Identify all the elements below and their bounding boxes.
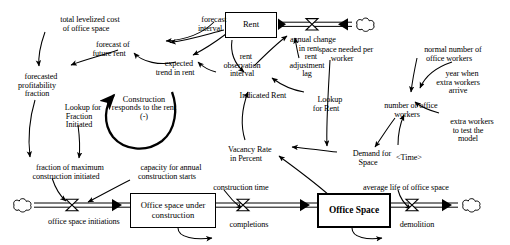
var-expected-trend-in-rent[interactable]: expected trend in rent (137, 52, 213, 85)
var-extra-workers-to-test-the-model-text: extra workers to test the model (450, 117, 493, 143)
var-lookup-for-rent[interactable]: Lookup for Rent (302, 88, 350, 121)
stock-office-space-label: Office Space (329, 206, 379, 216)
stock-office-space-under-construction-label: Office space under construction (131, 201, 215, 219)
var-indicated-rent-text: Indicated Rent (240, 91, 287, 100)
var-time-text: <Time> (396, 153, 422, 162)
var-indicated-rent[interactable]: Indicated Rent (222, 84, 296, 109)
var-lookup-for-fraction-initiated[interactable]: Lookup for Fraction Initiated (48, 96, 110, 138)
var-forecasted-profitability-fraction-text: forecasted profitability fraction (18, 72, 57, 98)
flow-label-demolition: demolition (384, 213, 442, 238)
var-average-life-of-office-space[interactable]: average life of office space (330, 176, 474, 201)
var-vacancy-rate-in-percent-text: Vacancy Rate in Percent (228, 145, 272, 162)
flow-office-space-initiations-text: office space initiations (48, 217, 120, 226)
var-space-needed-per-worker-text: space needed per worker (319, 45, 373, 62)
var-forecast-interval-text: forecast interval (198, 15, 227, 32)
var-construction-time[interactable]: construction time (192, 176, 282, 201)
var-lookup-for-rent-text: Lookup for Rent (313, 95, 342, 112)
var-extra-workers-to-test-the-model[interactable]: extra workers to test the model (434, 110, 502, 152)
var-time[interactable]: <Time> (382, 146, 428, 171)
var-normal-number-of-office-workers-text: normal number of office workers (424, 45, 482, 62)
var-expected-trend-in-rent-text: expected trend in rent (156, 59, 195, 76)
var-fraction-of-maximum-construction-initiated[interactable]: fraction of maximum construction initiat… (4, 156, 128, 189)
loop-polarity: (-) (108, 113, 180, 121)
var-forecast-of-future-rent-text: forecast of future rent (92, 40, 129, 57)
flow-demolition-text: demolition (400, 220, 434, 229)
var-year-when-extra-workers-arrive-text: year when extra workers arrive (436, 69, 479, 95)
flow-label-completions: completions (216, 213, 274, 238)
var-rent-observation-interval[interactable]: rent observation interval (213, 45, 271, 87)
flow-completions-text: completions (229, 220, 268, 229)
var-year-when-extra-workers-arrive[interactable]: year when extra workers arrive (424, 62, 492, 104)
var-fraction-of-maximum-construction-initiated-text: fraction of maximum construction initiat… (32, 163, 103, 180)
var-space-needed-per-worker[interactable]: space needed per worker (293, 38, 391, 71)
var-lookup-for-fraction-initiated-text: Lookup for Fraction Initiated (65, 103, 101, 129)
var-number-of-office-workers-text: number of office workers (384, 101, 437, 118)
var-forecast-interval[interactable]: forecast interval (182, 8, 238, 41)
var-rent-observation-interval-text: rent observation interval (223, 52, 260, 78)
diagram-canvas: Rent Office space under construction Off… (0, 0, 510, 245)
loop-label-text: Construction responds to the rent (112, 95, 176, 112)
stock-rent-label: Rent (243, 20, 259, 29)
var-average-life-of-office-space-text: average life of office space (363, 183, 449, 192)
flow-label-office-space-initiations: office space initiations (28, 210, 132, 235)
var-construction-time-text: construction time (213, 183, 268, 192)
var-total-levelized-cost-text: total levelized cost of office space (60, 15, 119, 32)
loop-construction-responds-to-the-rent[interactable]: Construction responds to the rent (-) (108, 96, 180, 121)
